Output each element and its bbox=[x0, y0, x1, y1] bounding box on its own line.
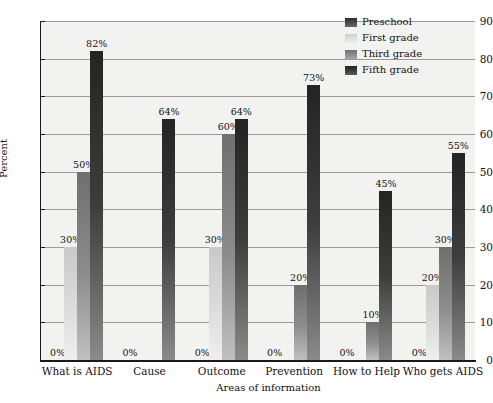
bar[interactable] bbox=[162, 119, 175, 360]
y-tick-label: 70 bbox=[459, 91, 493, 101]
y-tick-label: 40 bbox=[459, 204, 493, 214]
legend-item-label: Preschool bbox=[362, 17, 412, 27]
bar[interactable] bbox=[307, 85, 320, 360]
bar-group: 0%30%50%82% bbox=[41, 21, 113, 360]
y-tick-mark bbox=[41, 21, 45, 22]
y-tick-mark bbox=[41, 209, 45, 210]
bar-group: 0%30%60%64% bbox=[186, 21, 258, 360]
x-category-label: How to Help bbox=[330, 365, 402, 377]
bar[interactable] bbox=[222, 134, 235, 360]
y-tick-label: 0 bbox=[459, 355, 493, 365]
bar[interactable] bbox=[77, 172, 90, 360]
bar[interactable] bbox=[439, 247, 452, 360]
y-tick-label: 50 bbox=[459, 167, 493, 177]
y-axis-line bbox=[40, 21, 41, 361]
legend-swatch-icon bbox=[345, 34, 357, 43]
y-tick-mark bbox=[41, 322, 45, 323]
y-tick-label: 90 bbox=[459, 16, 493, 26]
x-category-label: Who gets AIDS bbox=[403, 365, 475, 377]
bar-value-label: 0% bbox=[266, 348, 283, 358]
y-tick-mark bbox=[41, 59, 45, 60]
legend-item-label: First grade bbox=[362, 33, 419, 43]
bar-value-label: 64% bbox=[230, 107, 253, 117]
legend-item[interactable]: Third grade bbox=[345, 46, 422, 62]
x-category-label: Cause bbox=[113, 365, 185, 377]
y-tick-mark bbox=[41, 134, 45, 135]
x-category-label: Prevention bbox=[258, 365, 330, 377]
x-axis-line bbox=[40, 360, 476, 362]
legend-swatch-icon bbox=[345, 66, 357, 75]
y-tick-mark bbox=[41, 172, 45, 173]
bar-chart: 0%30%50%82%0%64%0%30%60%64%0%20%73%0%10%… bbox=[0, 0, 493, 403]
y-tick-mark bbox=[41, 247, 45, 248]
bar[interactable] bbox=[379, 191, 392, 361]
bar-group: 0%64% bbox=[113, 21, 185, 360]
legend: PreschoolFirst gradeThird gradeFifth gra… bbox=[345, 14, 422, 78]
y-tick-mark bbox=[41, 360, 45, 361]
y-tick-label: 60 bbox=[459, 129, 493, 139]
bar-group: 0%20%73% bbox=[258, 21, 330, 360]
x-category-label: Outcome bbox=[186, 365, 258, 377]
bar-value-label: 55% bbox=[447, 141, 470, 151]
legend-item[interactable]: First grade bbox=[345, 30, 422, 46]
bar[interactable] bbox=[235, 119, 248, 360]
bar[interactable] bbox=[90, 51, 103, 360]
y-tick-label: 20 bbox=[459, 280, 493, 290]
y-tick-mark bbox=[41, 285, 45, 286]
y-tick-mark bbox=[41, 96, 45, 97]
y-tick-label: 10 bbox=[459, 317, 493, 327]
y-tick-label: 30 bbox=[459, 242, 493, 252]
legend-item-label: Third grade bbox=[362, 49, 422, 59]
y-tick-label: 80 bbox=[459, 54, 493, 64]
bar-value-label: 73% bbox=[302, 73, 325, 83]
bar[interactable] bbox=[209, 247, 222, 360]
y-axis-title: Percent bbox=[0, 139, 9, 178]
x-category-label: What is AIDS bbox=[41, 365, 113, 377]
legend-item[interactable]: Fifth grade bbox=[345, 62, 422, 78]
bar-value-label: 82% bbox=[85, 39, 108, 49]
bar[interactable] bbox=[64, 247, 77, 360]
legend-item-label: Fifth grade bbox=[362, 65, 419, 75]
legend-swatch-icon bbox=[345, 18, 357, 27]
bar-value-label: 0% bbox=[338, 348, 355, 358]
bar-value-label: 45% bbox=[374, 179, 397, 189]
bar-value-label: 0% bbox=[121, 348, 138, 358]
bar[interactable] bbox=[452, 153, 465, 360]
legend-swatch-icon bbox=[345, 50, 357, 59]
legend-item[interactable]: Preschool bbox=[345, 14, 422, 30]
x-axis-title: Areas of information bbox=[22, 382, 493, 393]
bar[interactable] bbox=[294, 285, 307, 360]
bar[interactable] bbox=[426, 285, 439, 360]
bar-value-label: 64% bbox=[157, 107, 180, 117]
bar[interactable] bbox=[366, 322, 379, 360]
